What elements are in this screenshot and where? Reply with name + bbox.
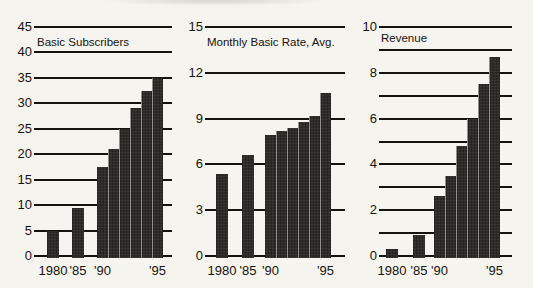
y-axis-tick-label: 6 — [347, 112, 377, 126]
bar — [478, 84, 489, 258]
chart-panel-revenue: 02468101980'85'90'95 — [0, 0, 533, 288]
y-axis-tick-label: 4 — [347, 157, 377, 171]
gridline — [379, 49, 512, 51]
x-axis-tick-label: '95 — [473, 264, 517, 278]
y-axis-tick-label: 10 — [347, 20, 377, 34]
bar — [456, 146, 467, 258]
bar — [445, 176, 456, 258]
y-axis-tick-label: 8 — [347, 66, 377, 80]
gridline — [379, 26, 512, 28]
y-axis-tick-label: 0 — [347, 249, 377, 263]
x-axis-tick-label: '90 — [418, 264, 462, 278]
bar — [413, 235, 425, 258]
bar — [434, 196, 445, 258]
bar — [386, 249, 398, 258]
y-axis-tick-label: 2 — [347, 203, 377, 217]
bar — [467, 119, 478, 258]
bar-chart-figure: Basic Subscribers Monthly Basic Rate, Av… — [0, 0, 533, 288]
bar — [489, 57, 500, 258]
